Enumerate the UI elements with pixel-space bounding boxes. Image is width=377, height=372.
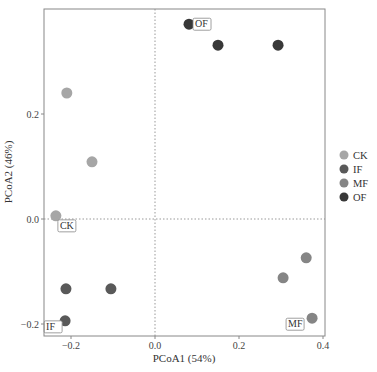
legend-label-mf: MF <box>353 178 368 189</box>
y-axis-ticks: −0.20.00.2 <box>21 109 44 330</box>
data-point-mf <box>278 272 289 283</box>
group-label-ck: CK <box>60 220 75 231</box>
x-tick-label: 0.2 <box>233 340 246 351</box>
x-axis-ticks: −0.20.00.20.4 <box>62 336 329 351</box>
y-tick-label: −0.2 <box>21 319 39 330</box>
pcoa-scatter-chart: CKIFMFOF −0.20.00.20.4 −0.20.00.2 PCoA1 … <box>0 0 377 372</box>
data-point-mf <box>301 252 312 263</box>
x-tick-label: −0.2 <box>62 340 80 351</box>
legend-swatch-mf <box>340 179 349 188</box>
data-point-if <box>60 283 71 294</box>
legend: CKIFMFOF <box>340 150 369 203</box>
legend-label-ck: CK <box>353 150 368 161</box>
y-tick-label: 0.0 <box>27 214 40 225</box>
x-tick-label: 0.0 <box>149 340 162 351</box>
group-label-if: IF <box>46 321 55 332</box>
data-point-mf <box>307 313 318 324</box>
group-label-of: OF <box>195 18 208 29</box>
group-label-mf: MF <box>288 318 303 329</box>
legend-label-if: IF <box>353 164 362 175</box>
y-tick-label: 0.2 <box>27 109 40 120</box>
data-point-of <box>273 40 284 51</box>
data-point-if <box>105 283 116 294</box>
legend-label-of: OF <box>353 192 367 203</box>
y-axis-title: PCoA2 (46%) <box>2 140 15 203</box>
data-point-ck <box>61 88 72 99</box>
x-tick-label: 0.4 <box>317 340 330 351</box>
data-point-of <box>213 40 224 51</box>
x-axis-title: PCoA1 (54%) <box>153 352 216 365</box>
legend-swatch-ck <box>340 151 349 160</box>
legend-swatch-if <box>340 165 349 174</box>
legend-swatch-of <box>340 193 349 202</box>
plot-frame <box>44 9 325 336</box>
reference-lines <box>44 9 325 336</box>
data-points <box>50 19 317 327</box>
group-labels: CKIFMFOF <box>44 18 304 333</box>
data-point-ck <box>87 156 98 167</box>
